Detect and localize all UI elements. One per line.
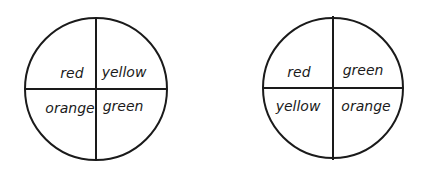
spinner-1-bottom-left-label: orange — [45, 100, 94, 116]
spinner-2-bottom-left-label: yellow — [275, 98, 321, 114]
spinner-1-bottom-right-label: green — [103, 98, 144, 114]
spinner-1-top-left-label: red — [60, 65, 83, 81]
spinner-2-bottom-right-label: orange — [341, 98, 390, 114]
spinner-1: red yellow orange green — [25, 17, 167, 160]
spinner-1-top-right-label: yellow — [101, 64, 147, 80]
spinner-2-top-right-label: green — [343, 62, 384, 78]
diagram-canvas: red yellow orange green red green yellow… — [0, 0, 421, 175]
spinner-2: red green yellow orange — [263, 16, 403, 160]
spinner-2-top-left-label: red — [287, 64, 310, 80]
